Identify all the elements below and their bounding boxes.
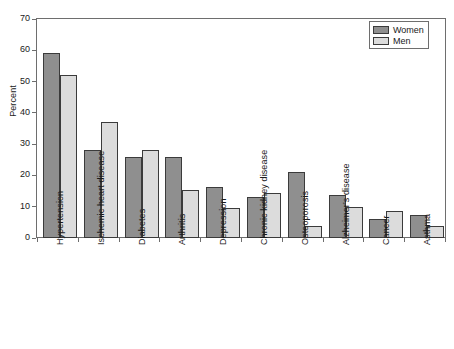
bar-group bbox=[119, 19, 160, 238]
x-axis-tick bbox=[241, 238, 242, 242]
x-axis-tick bbox=[37, 238, 38, 242]
x-axis-label: Alzheimer's disease bbox=[341, 163, 351, 245]
x-axis-tick bbox=[200, 238, 201, 242]
x-axis-label: Hypertension bbox=[55, 191, 65, 245]
legend-item-men: Men bbox=[373, 35, 424, 46]
x-axis-tick bbox=[282, 238, 283, 242]
x-axis-label: Chronic kidney disease bbox=[259, 150, 269, 245]
y-tick-label: 40 bbox=[20, 107, 30, 118]
x-axis-tick bbox=[404, 238, 405, 242]
bar-group bbox=[363, 19, 404, 238]
x-axis-label: Diabetes bbox=[137, 209, 147, 245]
y-tick-label: 10 bbox=[20, 201, 30, 212]
chart-legend: Women Men bbox=[369, 21, 429, 49]
legend-item-women: Women bbox=[373, 24, 424, 35]
x-axis-tick bbox=[78, 238, 79, 242]
legend-swatch-men-icon bbox=[373, 37, 389, 45]
x-axis-label: Arthritis bbox=[177, 214, 187, 245]
y-tick-label: 60 bbox=[20, 44, 30, 55]
y-tick-label: 30 bbox=[20, 138, 30, 149]
x-axis-label: Depression bbox=[218, 198, 228, 245]
x-axis-label: Osteoporosis bbox=[300, 191, 310, 245]
bar-group bbox=[159, 19, 200, 238]
x-axis-label: Ischemic heart disease bbox=[96, 151, 106, 245]
bar-group bbox=[404, 19, 445, 238]
x-axis-tick bbox=[445, 238, 446, 242]
bar-chart: Percent 010203040506070 HypertensionIsch… bbox=[0, 0, 454, 349]
legend-swatch-women-icon bbox=[373, 26, 389, 34]
x-axis-tick bbox=[323, 238, 324, 242]
y-tick-label: 70 bbox=[20, 13, 30, 24]
x-axis-tick bbox=[363, 238, 364, 242]
legend-label-men: Men bbox=[393, 36, 411, 46]
x-axis-label: Cancer bbox=[381, 215, 391, 245]
y-tick-label: 50 bbox=[20, 76, 30, 87]
legend-label-women: Women bbox=[393, 25, 424, 35]
x-axis-tick bbox=[159, 238, 160, 242]
y-axis-title: Percent bbox=[8, 66, 18, 136]
y-tick-label: 0 bbox=[25, 232, 30, 243]
x-axis-label: Asthma bbox=[422, 214, 432, 245]
y-tick-label: 20 bbox=[20, 169, 30, 180]
x-axis-tick bbox=[119, 238, 120, 242]
